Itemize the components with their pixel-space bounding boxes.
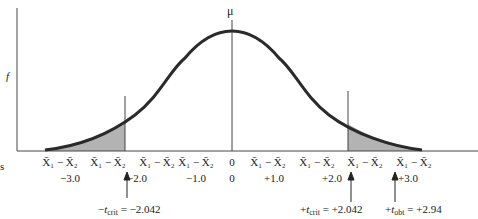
x-label-value: −3.0 bbox=[40, 172, 100, 184]
t-distribution-diagram bbox=[0, 0, 478, 219]
x-label-value: +1.0 bbox=[244, 172, 304, 184]
x-label-value: +2.0 bbox=[302, 172, 362, 184]
y-axis-label: f bbox=[6, 70, 9, 82]
distribution-curve bbox=[45, 31, 422, 150]
pos-tobt-annotation: +tobt = +2.94 bbox=[385, 203, 442, 219]
x-label-value: −2.0 bbox=[107, 172, 167, 184]
neg-tcrit-annotation: −tcrit = −2.042 bbox=[98, 203, 161, 219]
x-label-value: +3.0 bbox=[378, 172, 438, 184]
cut-off-label: s bbox=[0, 160, 4, 172]
mean-label: μ bbox=[227, 5, 233, 17]
pos-tcrit-annotation: +tcrit = +2.042 bbox=[300, 203, 363, 219]
x-label-var: X̄₁ − X̄₂ bbox=[384, 156, 444, 168]
